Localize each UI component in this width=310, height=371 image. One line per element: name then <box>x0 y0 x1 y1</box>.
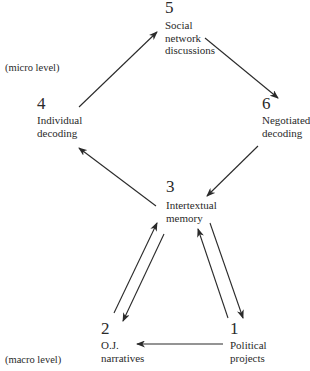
edge-3-to-4 <box>79 148 156 206</box>
node-label-line: Social <box>165 19 215 32</box>
macro-level-label: (macro level) <box>5 354 61 366</box>
node-1-political-projects: 1 Political projects <box>230 321 267 364</box>
edge-3-to-1 <box>210 223 243 318</box>
node-number: 5 <box>165 0 215 15</box>
node-label-line: decoding <box>262 127 310 140</box>
node-6-negotiated-decoding: 6 Negotiated decoding <box>262 96 310 139</box>
node-label-line: memory <box>166 212 217 225</box>
node-label-line: Political <box>230 339 267 352</box>
edge-1-to-3 <box>198 229 228 318</box>
node-label-line: projects <box>230 352 267 365</box>
node-4-individual-decoding: 4 Individual decoding <box>37 96 82 139</box>
node-label-line: discussions <box>165 44 215 57</box>
node-number: 1 <box>230 321 267 336</box>
node-3-intertextual-memory: 3 Intertextual memory <box>166 179 217 224</box>
node-label-line: decoding <box>37 127 82 140</box>
node-2-oj-narratives: 2 O.J. narratives <box>101 321 144 364</box>
node-5-social-network-discussions: 5 Social network discussions <box>165 0 215 57</box>
node-label-line: Intertextual <box>166 199 217 212</box>
node-number: 3 <box>166 179 217 194</box>
node-label-line: network <box>165 32 215 45</box>
edge-3-to-2 <box>123 234 164 321</box>
node-label-line: O.J. <box>101 339 144 352</box>
node-number: 4 <box>37 96 82 111</box>
node-number: 6 <box>262 96 310 111</box>
node-label-line: Negotiated <box>262 114 310 127</box>
edge-4-to-5 <box>79 32 157 107</box>
node-label-line: Individual <box>37 114 82 127</box>
micro-level-label: (micro level) <box>5 62 60 74</box>
node-number: 2 <box>101 321 144 336</box>
edge-2-to-3 <box>114 223 157 313</box>
arrows-layer <box>0 0 310 371</box>
edge-5-to-6 <box>205 38 278 98</box>
node-label-line: narratives <box>101 352 144 365</box>
